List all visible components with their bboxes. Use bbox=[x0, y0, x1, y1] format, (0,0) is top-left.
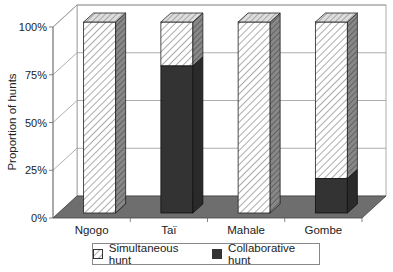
svg-text:Gombe: Gombe bbox=[305, 224, 343, 236]
hatch-swatch-icon bbox=[93, 249, 103, 259]
bar-ngogo bbox=[84, 13, 126, 213]
svg-text:Ngogo: Ngogo bbox=[75, 224, 109, 236]
solid-swatch-icon bbox=[212, 249, 222, 259]
svg-text:75%: 75% bbox=[25, 69, 47, 81]
svg-text:Mahale: Mahale bbox=[227, 224, 265, 236]
legend-label: Simultaneous hunt bbox=[109, 242, 202, 266]
svg-text:0%: 0% bbox=[31, 212, 47, 224]
y-axis: 0%25%50%75%100% bbox=[19, 21, 53, 224]
bar-taï bbox=[161, 13, 203, 213]
bar-mahale bbox=[238, 13, 280, 213]
svg-text:50%: 50% bbox=[25, 117, 47, 129]
legend-item-collaborative: Collaborative hunt bbox=[212, 242, 319, 266]
svg-text:Taï: Taï bbox=[161, 224, 177, 236]
svg-text:25%: 25% bbox=[25, 164, 47, 176]
legend-label: Collaborative hunt bbox=[228, 242, 319, 266]
stacked-bar-chart: 0%25%50%75%100% NgogoTaïMahaleGombe Prop… bbox=[0, 0, 393, 272]
y-axis-title: Proportion of hunts bbox=[6, 73, 18, 170]
bar-gombe bbox=[315, 13, 357, 213]
x-axis-labels: NgogoTaïMahaleGombe bbox=[75, 218, 362, 236]
svg-text:100%: 100% bbox=[19, 21, 47, 33]
legend: Simultaneous hunt Collaborative hunt bbox=[92, 243, 320, 265]
legend-item-simultaneous: Simultaneous hunt bbox=[93, 242, 202, 266]
